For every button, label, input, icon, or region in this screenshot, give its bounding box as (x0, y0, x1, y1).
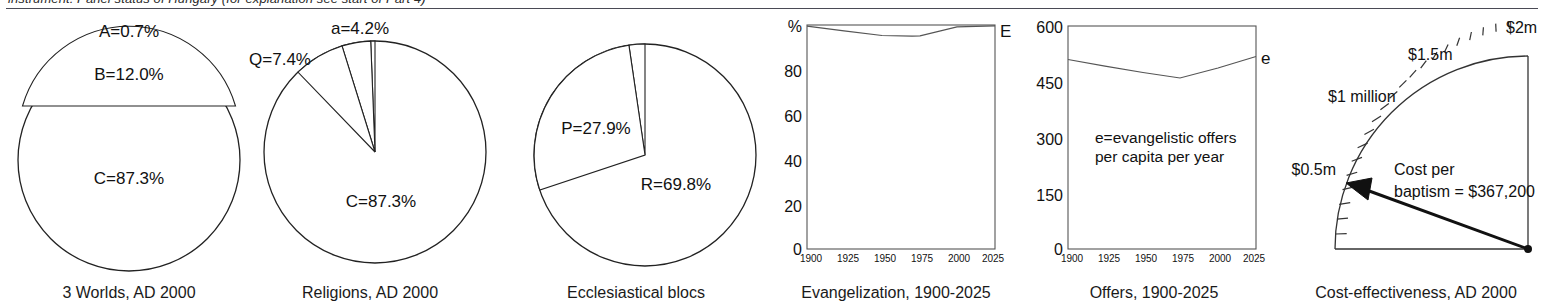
x-tick-2025: 2025 (982, 253, 1005, 264)
x-tick-1975: 1975 (1172, 253, 1195, 264)
gauge-arc (1335, 56, 1528, 249)
gauge-pivot (1524, 245, 1532, 253)
y-tick-450: 450 (1036, 75, 1063, 92)
y-tick-600: 600 (1036, 19, 1063, 36)
panel-caption-cost-effectiveness: Cost-effectiveness, AD 2000 (1288, 284, 1544, 302)
x-tick-1975: 1975 (911, 253, 934, 264)
y-tick-100: % (788, 18, 802, 35)
y-tick-40: 40 (784, 153, 802, 170)
gauge-needle-arrowhead (1346, 178, 1372, 200)
gauge-scale-label-1million: $1 million (1328, 88, 1396, 105)
gauge-note-line-1: Cost per (1394, 161, 1455, 178)
y-tick-300: 300 (1036, 131, 1063, 148)
religions-pie-chart (236, 12, 504, 282)
page-header-text: instrument: Panel status of Hungary (for… (8, 0, 426, 6)
cost-effectiveness-gauge: $0.5m $1 million $1.5m $2m Cost per bapt… (1288, 12, 1544, 284)
x-tick-2025: 2025 (1243, 253, 1266, 264)
y-tick-150: 150 (1036, 187, 1063, 204)
offers-note-line-1: e=evangelistic offers (1095, 129, 1237, 146)
gauge-scale-label-0-5m: $0.5m (1292, 161, 1336, 178)
panel-religions: a=4.2% Q=7.4% C=87.3% Religions, AD 2000 (236, 12, 504, 306)
blocs-pie-chart (500, 12, 772, 282)
panel-caption-offers: Offers, 1900-2025 (1020, 284, 1288, 302)
offers-note-line-2: per capita per year (1095, 148, 1224, 165)
series-label-E: E (1000, 22, 1011, 41)
x-tick-1950: 1950 (874, 253, 897, 264)
y-tick-60: 60 (784, 108, 802, 125)
panel-evangelization: % 80 60 40 20 0 1900 1925 1950 1975 2000… (772, 12, 1020, 306)
x-tick-1925: 1925 (1098, 253, 1121, 264)
offers-line-chart: 600 450 300 150 0 1900 1925 1950 1975 20… (1020, 12, 1288, 284)
three-worlds-pie-chart (0, 12, 258, 282)
y-tick-20: 20 (784, 198, 802, 215)
panel-ecclesiastical-blocs: P=27.9% R=69.8% Ecclesiastical blocs (500, 12, 772, 306)
panel-three-worlds: A=0.7% B=12.0% C=87.3% 3 Worlds, AD 2000 (0, 12, 258, 306)
gauge-scale-label-2m: $2m (1506, 19, 1537, 36)
header-divider (6, 8, 1538, 9)
gauge-scale-label-1-5m: $1.5m (1408, 46, 1452, 63)
panel-caption-evangelization: Evangelization, 1900-2025 (772, 284, 1020, 302)
evangelization-line-chart: % 80 60 40 20 0 1900 1925 1950 1975 2000… (772, 12, 1020, 284)
x-tick-1950: 1950 (1135, 253, 1158, 264)
plot-frame (807, 25, 995, 249)
pie-slice-b (23, 26, 236, 106)
series-label-e: e (1261, 49, 1270, 68)
panel-caption-three-worlds: 3 Worlds, AD 2000 (0, 284, 258, 302)
x-tick-1900: 1900 (1061, 253, 1084, 264)
panel-caption-blocs: Ecclesiastical blocs (500, 284, 772, 302)
panel-offers: 600 450 300 150 0 1900 1925 1950 1975 20… (1020, 12, 1288, 306)
x-tick-2000: 2000 (948, 253, 971, 264)
x-tick-1925: 1925 (837, 253, 860, 264)
x-tick-2000: 2000 (1209, 253, 1232, 264)
panel-cost-effectiveness: $0.5m $1 million $1.5m $2m Cost per bapt… (1288, 12, 1544, 306)
y-tick-80: 80 (784, 63, 802, 80)
panel-caption-religions: Religions, AD 2000 (236, 284, 504, 302)
gauge-note-line-2: baptism = $367,200 (1394, 183, 1535, 200)
x-tick-1900: 1900 (800, 253, 823, 264)
